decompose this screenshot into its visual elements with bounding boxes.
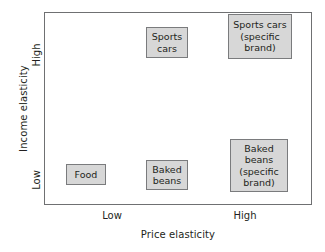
category-box-baked-beans: Baked beans — [146, 160, 188, 190]
x-axis-title: Price elasticity — [44, 229, 312, 240]
category-box-sports-cars: Sports cars — [146, 27, 188, 58]
y-tick-label-low: Low — [30, 153, 44, 207]
category-box-food: Food — [66, 164, 106, 185]
x-tick-label-low: Low — [82, 209, 142, 223]
category-box-baked-beans-specific-brand: Baked beans (specific brand) — [230, 139, 288, 192]
category-box-sports-cars-specific-brand: Sports cars (specific brand) — [228, 14, 292, 59]
x-tick-label-high: High — [215, 209, 275, 223]
elasticity-matrix-chart: Income elasticity High Low Low High Pric… — [0, 0, 325, 252]
y-tick-label-high: High — [30, 28, 44, 82]
